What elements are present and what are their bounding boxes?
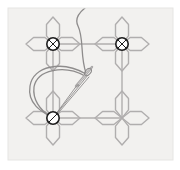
stitch-diagram-canvas (0, 0, 180, 170)
circle-slash-marker-icon (47, 112, 59, 124)
fabric-swatch (8, 8, 173, 160)
circle-cross-marker-icon (47, 38, 59, 50)
circle-cross-marker-icon (116, 38, 128, 50)
diagram-frame: Embroidery stitch diagram Four-petal flo… (0, 0, 180, 170)
